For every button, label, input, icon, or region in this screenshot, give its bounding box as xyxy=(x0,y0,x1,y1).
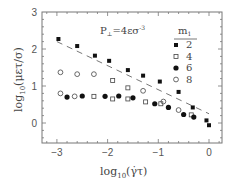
legend-entries: 2468 xyxy=(173,39,192,85)
legend-label: 2 xyxy=(186,39,192,50)
data-point-m4 xyxy=(111,78,115,82)
legend: m1 2468 xyxy=(173,25,197,85)
legend-marker-m2 xyxy=(174,43,178,47)
data-point-m2 xyxy=(75,44,79,48)
x-tick-label: 0 xyxy=(206,147,212,158)
data-point-m2 xyxy=(158,80,162,84)
data-point-m4 xyxy=(92,94,96,98)
legend-label: 4 xyxy=(186,51,192,62)
data-point-m2 xyxy=(204,118,208,122)
data-point-m6 xyxy=(64,95,69,100)
data-point-m2 xyxy=(56,37,60,41)
data-point-m4 xyxy=(144,100,148,104)
data-point-m2 xyxy=(93,54,97,58)
data-point-m4 xyxy=(126,97,130,101)
data-point-m8 xyxy=(141,88,146,93)
x-axis-tick-labels: −3−2−10 xyxy=(51,147,212,158)
data-point-m2 xyxy=(177,90,181,94)
data-point-m6 xyxy=(130,95,135,100)
scatter-plot: −3−2−10 0123 P⊥=4εσ-3 m1 2468 log10(γ̇τ)… xyxy=(0,0,236,186)
annotation: P⊥=4εσ-3 xyxy=(100,24,145,37)
y-tick-label: 1 xyxy=(31,81,37,92)
data-point-m2 xyxy=(107,59,111,63)
data-point-m8 xyxy=(58,91,63,96)
data-point-m8 xyxy=(75,72,80,77)
legend-label: 6 xyxy=(186,62,192,73)
y-axis-ticks xyxy=(42,19,222,137)
legend-marker-m4 xyxy=(174,55,178,59)
y-tick-label: 0 xyxy=(31,118,37,129)
data-point-m6 xyxy=(102,94,107,99)
x-tick-label: −3 xyxy=(51,147,63,158)
legend-title: m1 xyxy=(178,25,191,37)
data-point-m6 xyxy=(116,93,121,98)
legend-marker-m8 xyxy=(174,77,179,82)
legend-marker-m6 xyxy=(173,65,178,70)
data-point-m4 xyxy=(111,97,115,101)
x-tick-label: −1 xyxy=(153,147,165,158)
legend-label: 8 xyxy=(186,74,192,85)
x-axis-label: log10(γ̇τ) xyxy=(100,165,147,180)
y-axis-tick-labels: 0123 xyxy=(31,7,37,129)
data-point-m2 xyxy=(191,105,195,109)
data-point-m8 xyxy=(72,94,77,99)
x-tick-label: −2 xyxy=(102,147,114,158)
data-point-m8 xyxy=(58,70,63,75)
data-point-m8 xyxy=(92,72,97,77)
y-tick-label: 2 xyxy=(31,44,37,55)
y-tick-label: 3 xyxy=(31,7,37,18)
data-point-m8 xyxy=(176,108,181,113)
data-point-m4 xyxy=(126,86,130,90)
y-axis-label: log10(μετ/σ) xyxy=(12,47,27,112)
data-point-m6 xyxy=(181,112,186,117)
data-point-m2 xyxy=(126,68,130,72)
data-point-m6 xyxy=(166,105,171,110)
data-point-m6 xyxy=(152,101,157,106)
data-point-m2 xyxy=(207,123,211,127)
data-point-m6 xyxy=(80,93,85,98)
data-point-m2 xyxy=(141,74,145,78)
data-point-m6 xyxy=(191,114,196,119)
